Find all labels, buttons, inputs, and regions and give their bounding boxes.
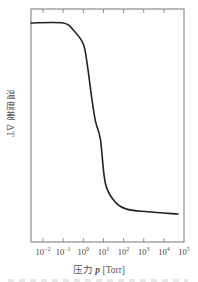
data-curve: [31, 22, 178, 214]
plot-frame: [31, 9, 184, 242]
x-tick-label: 101: [98, 246, 110, 257]
x-tick-label: 10−1: [56, 246, 71, 257]
x-tick-label: 102: [118, 246, 130, 257]
x-axis-ticks: [43, 9, 164, 242]
x-axis-title-unit: [Torr]: [100, 265, 125, 275]
x-axis-title: 压力 p [Torr]: [0, 262, 198, 276]
x-tick-label: 103: [138, 246, 150, 257]
x-tick-label: 104: [158, 246, 170, 257]
chart-canvas: [0, 0, 198, 282]
x-axis-title-prefix: 压力: [73, 265, 95, 275]
x-tick-label: 100: [78, 246, 90, 257]
y-axis-title: 温度差 ΔT: [3, 90, 17, 160]
x-tick-label: 105: [178, 246, 190, 257]
x-tick-label: 10−2: [36, 246, 51, 257]
